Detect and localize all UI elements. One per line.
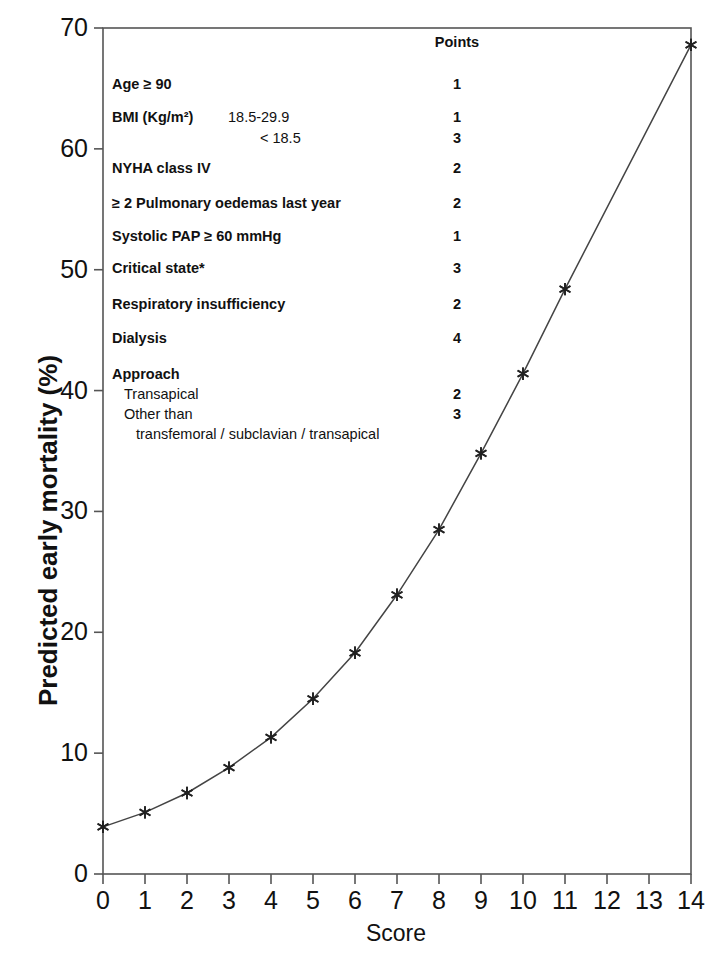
data-point-marker: [182, 787, 193, 799]
y-tick-label: 50: [32, 257, 88, 282]
plot-area: [0, 0, 712, 960]
score-row-sublabel: Other than: [124, 406, 193, 422]
x-tick-label: 9: [459, 888, 503, 913]
score-row-points: 2: [412, 296, 502, 312]
y-tick-label: 10: [32, 740, 88, 765]
score-row-label: ≥ 2 Pulmonary oedemas last year: [112, 195, 341, 211]
plot-frame: [103, 28, 691, 874]
data-point-marker: [140, 806, 151, 818]
axis-ticks: [94, 28, 691, 884]
x-tick-label: 14: [669, 888, 712, 913]
chart-page: Predicted early mortality (%) Score 0102…: [0, 0, 712, 960]
x-tick-label: 4: [249, 888, 293, 913]
score-row-label: Respiratory insufficiency: [112, 296, 285, 312]
score-row-points: 3: [412, 260, 502, 276]
data-point-marker: [686, 39, 697, 51]
y-tick-label: 40: [32, 378, 88, 403]
x-tick-label: 8: [417, 888, 461, 913]
x-tick-label: 1: [123, 888, 167, 913]
score-row-points: 4: [412, 330, 502, 346]
score-row-points: 2: [412, 195, 502, 211]
score-row-sublabel: Transapical: [124, 386, 198, 402]
x-tick-label: 13: [627, 888, 671, 913]
data-point-marker: [224, 761, 235, 773]
y-tick-label: 60: [32, 136, 88, 161]
score-row-label: Approach: [112, 366, 180, 382]
score-row-points: 2: [412, 160, 502, 176]
x-tick-label: 10: [501, 888, 545, 913]
y-tick-label: 20: [32, 619, 88, 644]
x-tick-label: 11: [543, 888, 587, 913]
data-point-marker: [560, 283, 571, 295]
data-point-marker: [476, 447, 487, 459]
score-row-points: 3: [412, 130, 502, 146]
score-row-label: Systolic PAP ≥ 60 mmHg: [112, 228, 281, 244]
score-row-sublabel: 18.5-29.9: [228, 109, 289, 125]
data-point-marker: [518, 368, 529, 380]
x-tick-label: 6: [333, 888, 377, 913]
data-point-marker: [98, 821, 109, 833]
score-row-points: 1: [412, 76, 502, 92]
x-tick-label: 12: [585, 888, 629, 913]
x-tick-label: 3: [207, 888, 251, 913]
y-tick-label: 70: [32, 15, 88, 40]
score-row-sublabel: < 18.5: [260, 130, 301, 146]
y-tick-label: 0: [32, 861, 88, 886]
score-row-points: 1: [412, 109, 502, 125]
x-tick-label: 2: [165, 888, 209, 913]
score-row-label: NYHA class IV: [112, 160, 211, 176]
score-row-label: Dialysis: [112, 330, 167, 346]
x-tick-label: 0: [81, 888, 125, 913]
x-tick-label: 7: [375, 888, 419, 913]
score-row-label: Critical state*: [112, 260, 205, 276]
data-point-marker: [434, 523, 445, 535]
score-row-label: Age ≥ 90: [112, 76, 172, 92]
y-tick-label: 30: [32, 498, 88, 523]
x-tick-label: 5: [291, 888, 335, 913]
score-row-label: BMI (Kg/m²): [112, 109, 193, 125]
score-row-points: 3: [412, 406, 502, 422]
score-row-sublabel: transfemoral / subclavian / transapical: [136, 426, 379, 442]
points-column-header: Points: [412, 34, 502, 50]
score-row-points: 2: [412, 386, 502, 402]
score-row-points: 1: [412, 228, 502, 244]
